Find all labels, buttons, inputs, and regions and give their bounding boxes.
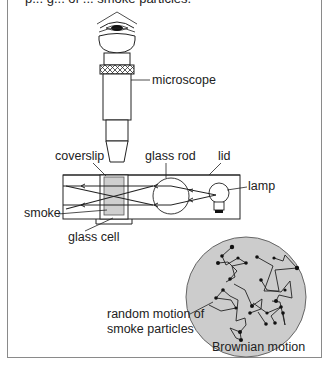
- label-lamp: lamp: [248, 179, 275, 193]
- label-glass-rod: glass rod: [145, 149, 196, 163]
- smoke-cell-apparatus: [63, 175, 240, 224]
- label-lid: lid: [218, 149, 231, 163]
- label-glass-cell: glass cell: [68, 230, 119, 244]
- brownian-motion-apparatus-diagram: microscope coverslip glass rod lid: [0, 0, 328, 369]
- label-coverslip: coverslip: [55, 149, 104, 163]
- label-microscope: microscope: [152, 73, 216, 87]
- label-smoke: smoke: [24, 206, 61, 220]
- brownian-motion-view: [186, 237, 306, 357]
- eye-icon: [97, 12, 137, 32]
- label-brownian-motion: Brownian motion: [212, 340, 305, 354]
- microscope: [99, 34, 135, 163]
- label-random-motion-line2: smoke particles: [107, 322, 194, 336]
